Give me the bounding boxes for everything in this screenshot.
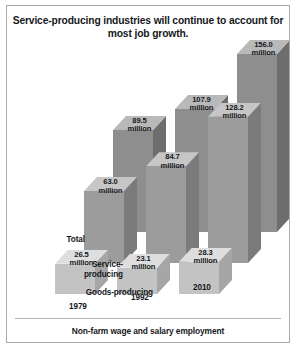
bar-value-label-goods-producing-2010: 28.3 million: [175, 249, 236, 266]
bar-side-face: [277, 40, 290, 232]
bar-value-label-service-producing-2010: 128.2 million: [204, 104, 265, 121]
footer-divider: [15, 318, 281, 319]
bar-front-face: [208, 117, 248, 263]
series-label-total: Total: [29, 235, 85, 245]
chart-footer-caption: Non-farm wage and salary employment: [7, 326, 289, 336]
bar-value-label-service-producing-1979: 63.0 million: [80, 178, 141, 195]
year-label-2010: 2010: [193, 283, 211, 292]
bar-service-producing-2010: [208, 103, 261, 263]
chart-plot-area: 89.5 million107.9 million156.0 million63…: [7, 6, 290, 343]
chart-figure: Service-producing industries will contin…: [6, 5, 290, 343]
bar-value-label-service-producing-1992: 84.7 million: [142, 153, 203, 170]
bar-side-face: [248, 103, 261, 263]
year-label-1979: 1979: [69, 302, 87, 311]
year-label-1992: 1992: [131, 293, 149, 302]
bar-value-label-total-1979: 89.5 million: [109, 117, 170, 134]
bar-value-label-total-2010: 156.0 million: [233, 41, 290, 58]
series-label-service-producing: Service- producing: [47, 260, 123, 279]
